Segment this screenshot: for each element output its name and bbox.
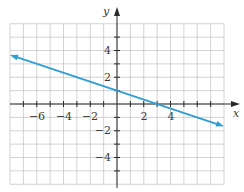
x-axis-label: x [233,107,240,120]
x-tick-label: −4 [56,110,72,123]
x-tick-label: −6 [29,110,45,123]
x-tick-label: −2 [82,110,98,123]
line-arrow-left-icon [10,55,19,61]
y-tick-label: −4 [95,151,111,164]
y-tick-label: −2 [95,124,111,137]
axes [10,7,240,188]
x-tick-label: 4 [168,110,175,123]
line-arrow-right-icon [215,121,224,127]
y-axis-arrow-icon [114,7,120,16]
y-tick-label: 2 [104,71,111,84]
tick-labels: −6 −4 −2 2 4 4 2 −2 −4 x y [29,5,240,164]
y-tick-label: 4 [104,44,111,57]
y-axis-label: y [102,5,110,18]
x-tick-label: 2 [141,110,148,123]
coordinate-plane: −6 −4 −2 2 4 4 2 −2 −4 x y [0,0,244,192]
